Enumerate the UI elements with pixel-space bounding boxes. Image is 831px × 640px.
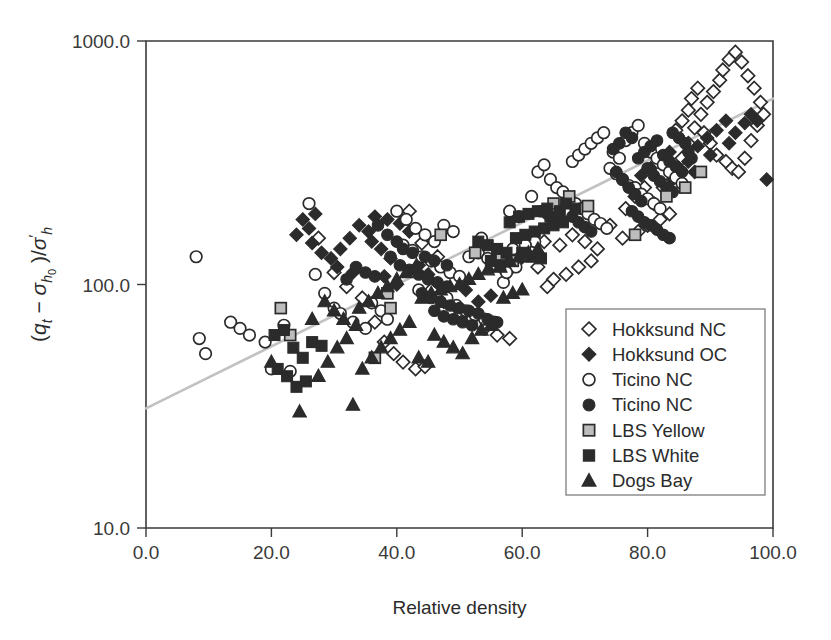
data-point xyxy=(584,254,597,267)
data-point xyxy=(526,191,538,203)
data-point xyxy=(654,203,666,215)
data-point xyxy=(334,242,347,255)
data-point xyxy=(382,313,394,325)
data-point xyxy=(407,247,419,259)
plot-canvas: 0.020.040.060.080.0100.010.0100.01000.0R… xyxy=(0,0,831,640)
data-point xyxy=(303,198,315,210)
legend-label: Dogs Bay xyxy=(612,470,693,491)
data-point xyxy=(744,134,757,147)
legend-label: LBS White xyxy=(612,445,699,466)
data-point xyxy=(559,268,572,281)
data-point xyxy=(607,143,619,155)
data-point xyxy=(566,228,579,241)
data-point xyxy=(343,231,356,244)
data-point xyxy=(472,295,485,308)
legend-marker-lbs-yellow xyxy=(583,425,594,436)
data-point xyxy=(503,332,516,345)
data-point xyxy=(470,247,481,258)
data-point xyxy=(305,312,319,324)
data-point xyxy=(282,371,293,382)
data-point xyxy=(680,182,691,193)
data-point xyxy=(538,159,550,171)
data-point xyxy=(738,152,751,165)
legend-label: Ticino NC xyxy=(612,394,693,415)
data-point xyxy=(598,127,610,139)
x-axis-title: Relative density xyxy=(392,597,527,618)
scatter-plot-figure: 0.020.040.060.080.0100.010.0100.01000.0R… xyxy=(0,0,831,640)
data-point xyxy=(686,152,698,164)
data-point xyxy=(200,348,212,360)
data-point xyxy=(265,355,279,367)
y-axis-title-text: (qt − σh0 )/σ′h xyxy=(25,227,58,342)
data-point xyxy=(429,255,441,267)
x-tick-label: 20.0 xyxy=(253,542,290,563)
data-point xyxy=(310,269,322,281)
data-point xyxy=(466,320,478,332)
data-point xyxy=(585,226,597,238)
data-point xyxy=(616,231,629,244)
data-point xyxy=(350,261,362,273)
data-point xyxy=(636,195,648,207)
data-point xyxy=(369,271,381,283)
data-point xyxy=(484,289,497,302)
x-tick-label: 80.0 xyxy=(629,542,666,563)
data-point xyxy=(583,201,594,212)
data-point xyxy=(293,405,307,417)
data-point xyxy=(428,328,442,340)
x-tick-label: 40.0 xyxy=(378,542,415,563)
data-point xyxy=(729,126,742,139)
data-point xyxy=(312,369,326,381)
data-point xyxy=(341,274,353,286)
legend-label: Ticino NC xyxy=(612,369,693,390)
data-point xyxy=(661,191,672,202)
data-point xyxy=(288,342,299,353)
data-point xyxy=(760,173,773,186)
x-tick-label: 100.0 xyxy=(749,542,797,563)
data-point xyxy=(601,223,613,235)
legend-label: LBS Yellow xyxy=(612,420,705,441)
data-point xyxy=(290,228,303,241)
data-point xyxy=(447,226,459,238)
data-point xyxy=(441,259,453,271)
data-point xyxy=(435,229,446,240)
data-point xyxy=(400,214,412,226)
data-point xyxy=(722,137,735,150)
data-point xyxy=(275,303,286,314)
data-point xyxy=(190,251,202,263)
data-point xyxy=(385,303,396,314)
data-point xyxy=(632,120,644,132)
data-point xyxy=(557,217,568,228)
data-point xyxy=(741,69,754,82)
y-tick-label: 1000.0 xyxy=(72,31,130,52)
data-point xyxy=(356,362,370,374)
data-point xyxy=(300,376,311,387)
data-point xyxy=(651,135,663,147)
data-point xyxy=(385,251,397,263)
data-point xyxy=(630,229,641,240)
data-point xyxy=(340,331,354,343)
y-tick-label: 100.0 xyxy=(82,275,130,296)
data-point xyxy=(316,340,327,351)
legend-marker-ticino-nc xyxy=(583,399,595,411)
data-point xyxy=(412,351,426,363)
data-point xyxy=(591,242,604,255)
data-point xyxy=(403,315,417,327)
data-point xyxy=(570,203,581,214)
y-axis-ticks: 10.0100.01000.0 xyxy=(72,31,146,539)
data-point xyxy=(391,205,403,217)
y-tick-label: 10.0 xyxy=(93,518,130,539)
data-point xyxy=(515,283,529,295)
x-tick-label: 0.0 xyxy=(133,542,159,563)
legend-label: Hokksund OC xyxy=(612,344,727,365)
x-tick-label: 60.0 xyxy=(504,542,541,563)
legend-label: Hokksund NC xyxy=(612,319,726,340)
data-point xyxy=(553,239,566,252)
data-point xyxy=(194,333,206,345)
data-point xyxy=(572,260,585,273)
data-point xyxy=(244,329,256,341)
data-point xyxy=(695,166,706,177)
data-point xyxy=(396,355,409,368)
data-point xyxy=(269,330,280,341)
data-point xyxy=(676,166,688,178)
legend-marker-ticino-nc xyxy=(583,374,595,386)
